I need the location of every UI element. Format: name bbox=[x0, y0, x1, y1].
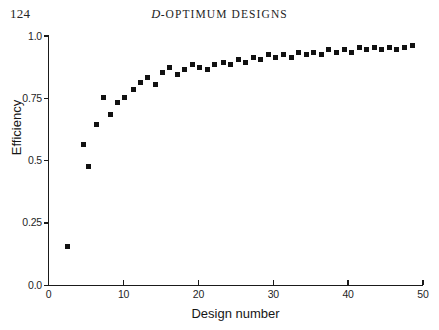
data-point bbox=[334, 50, 339, 55]
x-tick-label: 40 bbox=[333, 288, 363, 300]
data-point bbox=[81, 142, 86, 147]
data-point bbox=[266, 52, 271, 57]
data-point bbox=[86, 164, 91, 169]
data-point bbox=[115, 100, 120, 105]
data-point bbox=[122, 95, 127, 100]
data-point bbox=[205, 67, 210, 72]
data-point bbox=[190, 62, 195, 67]
data-point bbox=[326, 47, 331, 52]
data-point bbox=[153, 82, 158, 87]
data-point bbox=[182, 67, 187, 72]
data-point bbox=[65, 244, 70, 249]
x-tick-label: 50 bbox=[408, 288, 438, 300]
data-point bbox=[251, 55, 256, 60]
y-tick-mark bbox=[44, 35, 49, 36]
data-point bbox=[357, 45, 362, 50]
data-point bbox=[319, 52, 324, 57]
data-point bbox=[379, 47, 384, 52]
x-tick-label: 20 bbox=[183, 288, 213, 300]
data-point bbox=[304, 52, 309, 57]
data-point bbox=[197, 65, 202, 70]
x-tick-mark bbox=[422, 280, 423, 285]
data-point bbox=[311, 50, 316, 55]
y-tick-label-text: 0.25 bbox=[22, 216, 42, 228]
data-point bbox=[258, 57, 263, 62]
data-point bbox=[228, 62, 233, 67]
x-axis-line bbox=[48, 285, 423, 286]
data-point bbox=[108, 112, 113, 117]
x-tick-label: 30 bbox=[258, 288, 288, 300]
data-point bbox=[394, 47, 399, 52]
data-point bbox=[410, 43, 415, 48]
y-tick-label-text: 0.5 bbox=[28, 154, 42, 166]
x-tick-mark bbox=[123, 280, 124, 285]
y-tick-mark bbox=[44, 222, 49, 223]
y-tick-mark bbox=[44, 98, 49, 99]
scatter-plot: 0.00.250.50.751.0 01020304050 Design num… bbox=[0, 0, 439, 330]
data-point bbox=[402, 45, 407, 50]
y-tick-mark bbox=[44, 160, 49, 161]
x-tick-mark bbox=[48, 280, 49, 285]
data-point bbox=[94, 122, 99, 127]
data-point bbox=[296, 50, 301, 55]
data-point bbox=[167, 65, 172, 70]
data-point bbox=[289, 55, 294, 60]
x-tick-mark bbox=[198, 280, 199, 285]
data-point bbox=[101, 95, 106, 100]
data-point bbox=[160, 70, 165, 75]
data-point bbox=[273, 55, 278, 60]
y-tick-label: 0.25 bbox=[0, 216, 42, 228]
data-point bbox=[372, 45, 377, 50]
y-tick-label-text: 1.0 bbox=[28, 30, 42, 42]
x-tick-label: 10 bbox=[109, 288, 139, 300]
y-tick-label-text: 0.75 bbox=[22, 92, 42, 104]
data-point bbox=[281, 52, 286, 57]
data-point bbox=[175, 72, 180, 77]
data-point bbox=[342, 47, 347, 52]
data-point bbox=[131, 87, 136, 92]
x-tick-mark bbox=[273, 280, 274, 285]
data-point bbox=[145, 75, 150, 80]
data-point bbox=[221, 60, 226, 65]
x-axis-title: Design number bbox=[48, 306, 423, 321]
data-point bbox=[364, 47, 369, 52]
y-tick-label: 1.0 bbox=[0, 30, 42, 42]
x-tick-label: 0 bbox=[34, 288, 64, 300]
data-point bbox=[212, 62, 217, 67]
data-point bbox=[387, 45, 392, 50]
data-point bbox=[243, 60, 248, 65]
x-tick-mark bbox=[347, 280, 348, 285]
data-point bbox=[349, 50, 354, 55]
data-point bbox=[236, 57, 241, 62]
y-axis-title: Efficiency bbox=[9, 78, 24, 178]
data-point bbox=[138, 80, 143, 85]
